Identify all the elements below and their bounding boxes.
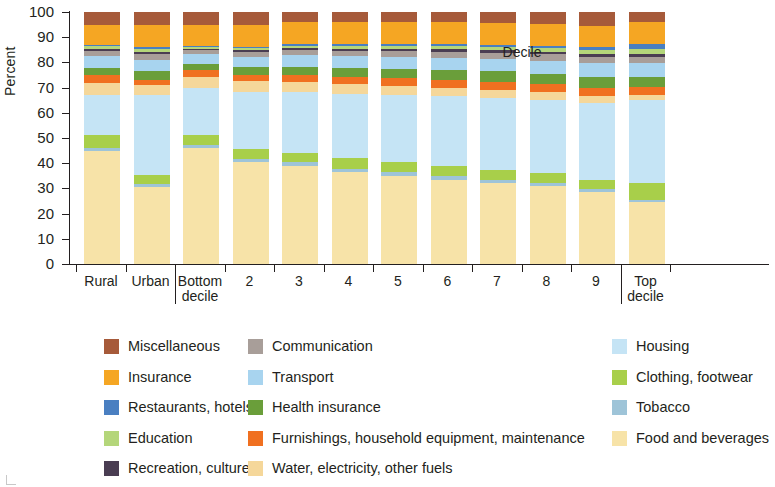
bar-segment-furnishings-household-equipment-maintenance[interactable] [332,77,368,84]
bar-segment-transport[interactable] [134,60,170,71]
bar-segment-tobacco[interactable] [134,184,170,187]
bar-segment-insurance[interactable] [480,23,516,45]
bar-segment-miscellaneous[interactable] [480,12,516,23]
bar-segment-insurance[interactable] [84,25,120,45]
bar-segment-miscellaneous[interactable] [233,12,269,25]
bar-segment-health-insurance[interactable] [282,67,318,75]
bar-segment-housing[interactable] [282,92,318,152]
bar-segment-tobacco[interactable] [431,176,467,179]
bar-segment-miscellaneous[interactable] [431,12,467,22]
bar-segment-water-electricity-other-fuels[interactable] [233,81,269,92]
legend-item-clothing-footwear[interactable]: Clothing, footwear [612,367,753,388]
bar-segment-food-and-beverages[interactable] [629,202,665,264]
bar-segment-housing[interactable] [579,103,615,180]
legend-item-housing[interactable]: Housing [612,336,689,357]
bar-segment-insurance[interactable] [183,25,219,46]
bar-segment-housing[interactable] [183,88,219,135]
bar-segment-housing[interactable] [84,95,120,135]
bar-segment-miscellaneous[interactable] [332,12,368,22]
bar-segment-insurance[interactable] [530,24,566,45]
bar-segment-clothing-footwear[interactable] [431,166,467,177]
bar-segment-tobacco[interactable] [579,189,615,192]
legend-item-tobacco[interactable]: Tobacco [612,397,690,418]
bar-segment-clothing-footwear[interactable] [183,135,219,145]
bar-segment-clothing-footwear[interactable] [629,183,665,199]
bar-segment-health-insurance[interactable] [84,68,120,76]
bar-segment-miscellaneous[interactable] [530,12,566,24]
bar-segment-transport[interactable] [480,59,516,72]
legend-item-miscellaneous[interactable]: Miscellaneous [104,336,220,357]
bar-segment-food-and-beverages[interactable] [381,176,417,264]
legend-item-food-and-beverages[interactable]: Food and beverages [612,428,769,449]
bar-segment-insurance[interactable] [381,22,417,44]
bar-segment-transport[interactable] [629,63,665,77]
bar-segment-water-electricity-other-fuels[interactable] [381,86,417,96]
legend-item-restaurants-hotels[interactable]: Restaurants, hotels [104,397,253,418]
legend-item-education[interactable]: Education [104,428,193,449]
legend-item-transport[interactable]: Transport [248,367,334,388]
bar-segment-water-electricity-other-fuels[interactable] [84,83,120,94]
bar-segment-tobacco[interactable] [480,180,516,183]
bar-segment-furnishings-household-equipment-maintenance[interactable] [233,75,269,82]
bar-segment-water-electricity-other-fuels[interactable] [282,82,318,93]
bar-segment-housing[interactable] [332,94,368,158]
bar-segment-furnishings-household-equipment-maintenance[interactable] [134,80,170,85]
bar-segment-food-and-beverages[interactable] [183,148,219,264]
bar-segment-food-and-beverages[interactable] [282,166,318,264]
bar-segment-food-and-beverages[interactable] [480,183,516,264]
bar-segment-water-electricity-other-fuels[interactable] [183,77,219,88]
legend-item-recreation-culture[interactable]: Recreation, culture [104,458,250,479]
bar-segment-insurance[interactable] [629,22,665,43]
bar-segment-clothing-footwear[interactable] [332,158,368,168]
bar-segment-food-and-beverages[interactable] [233,162,269,264]
bar-segment-health-insurance[interactable] [579,77,615,88]
bar-segment-miscellaneous[interactable] [134,12,170,25]
bar-segment-food-and-beverages[interactable] [84,151,120,264]
bar-segment-miscellaneous[interactable] [282,12,318,22]
bar-segment-clothing-footwear[interactable] [381,162,417,172]
bar-segment-health-insurance[interactable] [530,74,566,85]
bar-segment-furnishings-household-equipment-maintenance[interactable] [480,82,516,90]
bar-segment-miscellaneous[interactable] [629,12,665,22]
bar-segment-insurance[interactable] [332,22,368,44]
bar-segment-food-and-beverages[interactable] [530,186,566,264]
bar-segment-health-insurance[interactable] [381,69,417,79]
bar-segment-clothing-footwear[interactable] [282,153,318,163]
bar-segment-health-insurance[interactable] [332,68,368,77]
legend-item-health-insurance[interactable]: Health insurance [248,397,381,418]
bar-segment-water-electricity-other-fuels[interactable] [579,96,615,103]
bar-segment-furnishings-household-equipment-maintenance[interactable] [579,88,615,96]
bar-segment-housing[interactable] [134,95,170,176]
bar-segment-furnishings-household-equipment-maintenance[interactable] [183,70,219,76]
bar-segment-clothing-footwear[interactable] [84,135,120,148]
bar-segment-furnishings-household-equipment-maintenance[interactable] [282,75,318,82]
bar-segment-miscellaneous[interactable] [381,12,417,22]
bar-segment-insurance[interactable] [282,22,318,44]
bar-segment-housing[interactable] [629,100,665,183]
bar-segment-food-and-beverages[interactable] [579,192,615,264]
bar-segment-health-insurance[interactable] [629,77,665,87]
bar-segment-insurance[interactable] [431,22,467,44]
bar-segment-housing[interactable] [233,92,269,149]
bar-segment-housing[interactable] [530,100,566,173]
bar-segment-furnishings-household-equipment-maintenance[interactable] [84,75,120,83]
bar-segment-tobacco[interactable] [629,200,665,203]
bar-segment-water-electricity-other-fuels[interactable] [431,88,467,97]
legend-item-insurance[interactable]: Insurance [104,367,192,388]
bar-segment-water-electricity-other-fuels[interactable] [480,90,516,98]
bar-segment-tobacco[interactable] [530,183,566,186]
bar-segment-tobacco[interactable] [233,159,269,162]
bar-segment-clothing-footwear[interactable] [134,175,170,184]
bar-segment-transport[interactable] [530,61,566,74]
bar-segment-water-electricity-other-fuels[interactable] [134,85,170,95]
bar-segment-miscellaneous[interactable] [183,12,219,25]
bar-segment-furnishings-household-equipment-maintenance[interactable] [381,78,417,85]
bar-segment-furnishings-household-equipment-maintenance[interactable] [431,80,467,88]
bar-segment-miscellaneous[interactable] [579,12,615,26]
bar-segment-food-and-beverages[interactable] [332,172,368,264]
bar-segment-health-insurance[interactable] [480,71,516,82]
legend-item-furnishings-household-equipment-maintenance[interactable]: Furnishings, household equipment, mainte… [248,428,585,449]
bar-segment-tobacco[interactable] [84,148,120,151]
bar-segment-health-insurance[interactable] [431,70,467,80]
bar-segment-miscellaneous[interactable] [84,12,120,25]
